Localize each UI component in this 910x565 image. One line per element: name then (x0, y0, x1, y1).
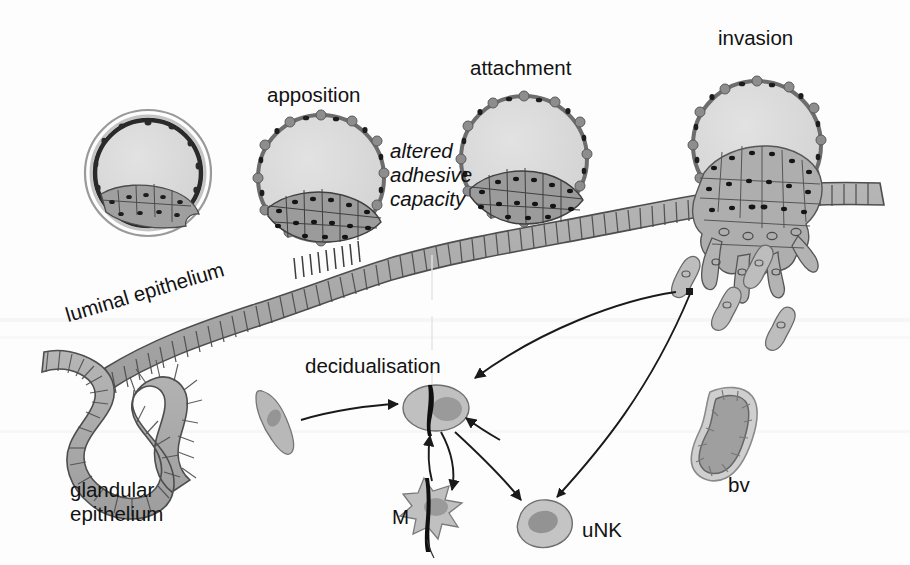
blastocyst-apposition (253, 110, 389, 246)
stromal-fibroblast-cell (256, 391, 294, 455)
label-unk: uNK (582, 519, 622, 542)
arrow-macrophage-decidual (429, 436, 432, 481)
label-macrophage: M (392, 506, 409, 529)
blastocyst-with-zona (85, 110, 211, 236)
arrow-unk-to-trophoblast (557, 294, 690, 497)
altered-line-3: capacity (390, 187, 472, 211)
label-attachment: attachment (470, 57, 571, 80)
altered-line-2: adhesive (390, 163, 472, 187)
label-decidualisation: decidualisation (305, 355, 441, 378)
label-bv: bv (728, 474, 750, 497)
glandular-line-1: glandular (70, 478, 163, 502)
label-altered-adhesive-capacity: altered adhesive capacity (390, 139, 472, 210)
unk-cell (517, 500, 572, 548)
implantation-diagram: apposition attachment invasion altered a… (0, 0, 910, 565)
arrow-trophoblast-to-decidual (475, 292, 676, 378)
label-glandular-epithelium: glandular epithelium (70, 478, 163, 526)
blastocyst-attachment (456, 91, 592, 227)
arrow-decidual-macrophage (441, 432, 454, 490)
trophoblast-cell (711, 287, 741, 330)
label-invasion: invasion (718, 27, 793, 50)
arrow-decidual-to-unk (455, 432, 521, 500)
label-apposition: apposition (267, 84, 360, 107)
arrow-fibroblast-to-decidual (301, 404, 398, 420)
decidual-cell (403, 385, 469, 436)
altered-line-1: altered (390, 139, 472, 163)
arrow-into-decidual-right (466, 418, 500, 440)
blood-vessel (691, 387, 757, 480)
trophoblast-cell (765, 307, 795, 350)
glandular-line-2: epithelium (70, 502, 163, 526)
